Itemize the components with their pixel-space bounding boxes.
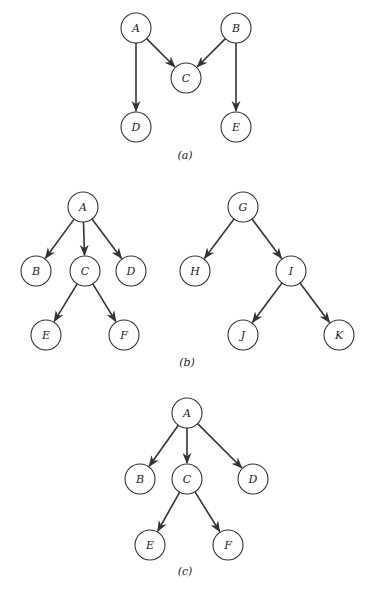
edge-b-to-c	[197, 39, 225, 67]
node-b: B	[125, 464, 155, 494]
edge-a-to-b	[149, 425, 178, 466]
edge-c-to-f	[93, 284, 116, 322]
node-a: A	[172, 398, 202, 428]
node-h: H	[180, 256, 210, 286]
node-b: B	[21, 256, 51, 286]
node-label: B	[231, 22, 240, 35]
node-d: D	[116, 256, 146, 286]
edge-c-to-f	[195, 492, 220, 532]
panel-b: ABCDEFGHIJK(b)	[21, 192, 354, 369]
node-i: I	[276, 256, 306, 286]
node-label: F	[119, 329, 128, 342]
graph-figure: ABCDE(a) ABCDEFGHIJK(b) ABCDEF(c)	[0, 0, 372, 590]
panel-caption: (b)	[179, 356, 195, 369]
node-e: E	[135, 530, 165, 560]
node-label: E	[231, 121, 240, 134]
node-c: C	[70, 256, 100, 286]
edge-a-to-d	[92, 219, 121, 258]
edge-g-to-i	[252, 219, 281, 258]
node-g: G	[228, 192, 258, 222]
panel-a: ABCDE(a)	[121, 13, 251, 162]
node-label: C	[81, 265, 90, 278]
tree-1: ABCDEF	[21, 192, 146, 350]
node-c: C	[172, 464, 202, 494]
edge-i-to-k	[300, 283, 329, 322]
panel-caption: (c)	[178, 565, 193, 578]
node-label: E	[145, 539, 154, 552]
node-k: K	[324, 320, 354, 350]
node-label: E	[41, 329, 50, 342]
node-label: B	[135, 473, 144, 486]
node-e: E	[221, 112, 251, 142]
edge-c-to-e	[54, 284, 77, 322]
node-label: C	[183, 473, 192, 486]
edge-a-to-c	[147, 39, 175, 67]
node-j: J	[228, 320, 258, 350]
node-d: D	[238, 464, 268, 494]
panel-c: ABCDEF(c)	[125, 398, 268, 578]
tree-2: GHIJK	[180, 192, 354, 350]
node-label: A	[78, 201, 87, 214]
node-a: A	[68, 192, 98, 222]
node-label: I	[288, 265, 294, 278]
node-label: F	[223, 539, 232, 552]
node-b: B	[221, 13, 251, 43]
edge-g-to-h	[205, 219, 234, 258]
node-c: C	[171, 63, 201, 93]
node-label: A	[182, 407, 191, 420]
node-e: E	[31, 320, 61, 350]
node-label: D	[126, 265, 136, 278]
edge-c-to-e	[158, 492, 180, 531]
node-f: F	[109, 320, 139, 350]
node-label: H	[189, 265, 200, 278]
node-a: A	[121, 13, 151, 43]
panel-caption: (a)	[177, 149, 192, 162]
node-label: K	[334, 329, 344, 342]
node-label: D	[131, 121, 141, 134]
edge-a-to-d	[198, 424, 242, 468]
node-d: D	[121, 112, 151, 142]
edge-a-to-c	[84, 222, 85, 255]
node-f: F	[213, 530, 243, 560]
edge-i-to-j	[253, 283, 282, 322]
node-label: C	[182, 72, 191, 85]
node-label: A	[131, 22, 140, 35]
node-label: J	[239, 329, 246, 342]
node-label: B	[31, 265, 40, 278]
edge-a-to-b	[46, 219, 75, 258]
node-label: G	[239, 201, 248, 214]
node-label: D	[248, 473, 258, 486]
